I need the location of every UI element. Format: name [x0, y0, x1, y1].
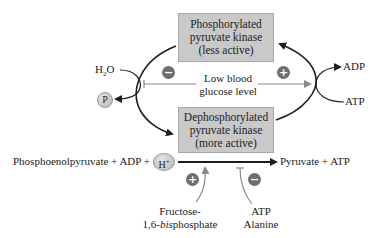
- bottom-box-line2: pyruvate kinase: [190, 124, 263, 137]
- fructose-bisphosphate-label: Fructose- 1,6-bisphosphate: [140, 205, 220, 231]
- activator-sign-icon: +: [186, 173, 199, 186]
- phosphorylated-pyruvate-kinase-box: Phosphorylated pyruvate kinase (less act…: [178, 13, 274, 62]
- water-label: H2O: [95, 63, 114, 81]
- atp-to-adp-arrow: [316, 67, 344, 102]
- reaction-substrates: Phosphoenolpyruvate + ADP +: [13, 155, 150, 168]
- top-box-line2: pyruvate kinase: [190, 31, 263, 44]
- dephosphorylated-pyruvate-kinase-box: Dephosphorylated pyruvate kinase (more a…: [178, 107, 274, 153]
- activate-sign-icon: +: [277, 66, 290, 79]
- top-box-line1: Phosphorylated: [190, 18, 262, 31]
- proton-circle: H+: [153, 153, 175, 171]
- bottom-box-line1: Dephosphorylated: [184, 111, 268, 124]
- inhibitor-sign-icon: −: [248, 173, 261, 186]
- phosphate-circle: P: [97, 92, 113, 108]
- activator-arrow: [196, 168, 205, 202]
- phosphorylation-arrow: [276, 44, 316, 120]
- reaction-products: Pyruvate + ATP: [280, 155, 350, 168]
- atp-label: ATP: [345, 95, 365, 108]
- low-blood-glucose-label: Low blood glucose level: [198, 72, 258, 98]
- adp-label: ADP: [343, 60, 365, 73]
- dephosphorylation-arrow: [136, 46, 176, 134]
- atp-alanine-label: ATP Alanine: [236, 205, 286, 231]
- inhibit-sign-icon: −: [162, 66, 175, 79]
- top-box-line3: (less active): [198, 44, 253, 57]
- bottom-box-line3: (more active): [195, 137, 257, 150]
